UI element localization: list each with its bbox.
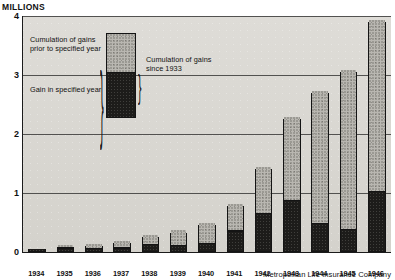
x-axis-tick-label: 1939 (164, 269, 192, 278)
legend: Cumulation of gains prior to specified y… (30, 29, 158, 121)
bar-1935 (57, 247, 75, 252)
bar-1936 (85, 246, 103, 252)
bar-segment-gain (199, 244, 215, 251)
x-axis-tick-label: 1940 (192, 269, 220, 278)
gridline (23, 16, 391, 17)
y-axis-tick-label: 2 (5, 129, 19, 139)
bar-segment-gain (114, 249, 130, 251)
bar-segment-gain (171, 246, 187, 251)
legend-brace-left-icon: } (100, 59, 104, 145)
x-axis-tick-label: 1936 (79, 269, 107, 278)
bar-segment-prior (228, 204, 244, 231)
legend-label-prior: Cumulation of gains prior to specified y… (30, 35, 102, 54)
gridline (23, 134, 391, 135)
bar-1939 (170, 233, 188, 252)
bar-segment-prior (143, 235, 159, 244)
bar-segment-prior (369, 20, 385, 191)
bar-1938 (142, 237, 160, 252)
bar-1934 (28, 249, 46, 252)
y-axis-tick-label: 0 (5, 247, 19, 257)
legend-swatch-prior (107, 34, 135, 72)
legend-sample-bar (106, 33, 136, 118)
bar-segment-gain (369, 192, 385, 251)
y-axis-tick-label: 1 (5, 188, 19, 198)
x-axis-tick-label: 1941 (220, 269, 248, 278)
x-axis-tick-label: 1935 (50, 269, 78, 278)
bar-1942 (255, 169, 273, 252)
x-axis-tick-label: 1938 (135, 269, 163, 278)
bar-segment-gain (29, 249, 45, 251)
x-axis-tick-label: 1934 (22, 269, 50, 278)
chart-root: MILLIONS 01234 1934193519361937193819391… (0, 0, 395, 280)
bar-1944 (311, 93, 329, 252)
bar-1946 (368, 22, 386, 252)
bar-segment-gain (312, 224, 328, 251)
bar-1943 (283, 119, 301, 252)
bar-segment-gain (143, 245, 159, 251)
bar-segment-gain (228, 232, 244, 251)
bar-segment-gain (256, 214, 272, 251)
bar-1937 (113, 243, 131, 252)
y-axis-tick-label: 3 (5, 70, 19, 80)
bar-1941 (227, 206, 245, 252)
bar-1945 (340, 72, 358, 252)
bar-segment-prior (171, 230, 187, 245)
bar-segment-prior (312, 91, 328, 224)
y-axis-tick-label: 4 (5, 11, 19, 21)
bar-segment-prior (284, 117, 300, 200)
legend-swatch-gain (107, 73, 135, 117)
bar-segment-gain (58, 249, 74, 251)
gridline (23, 193, 391, 194)
bar-segment-prior (256, 167, 272, 213)
bar-segment-gain (341, 230, 357, 251)
legend-label-since: Cumulation of gains since 1933 (146, 55, 220, 74)
bar-segment-gain (86, 249, 102, 251)
bar-segment-gain (284, 201, 300, 251)
bar-segment-prior (199, 223, 215, 242)
bar-1940 (198, 225, 216, 252)
bar-segment-prior (341, 70, 357, 229)
x-axis-tick-label: 1937 (107, 269, 135, 278)
source-credit: Metropolitan Life Insurance Company (263, 270, 391, 279)
legend-brace-right-icon: } (138, 69, 141, 103)
legend-label-gain: Gain in specified year (30, 85, 102, 94)
